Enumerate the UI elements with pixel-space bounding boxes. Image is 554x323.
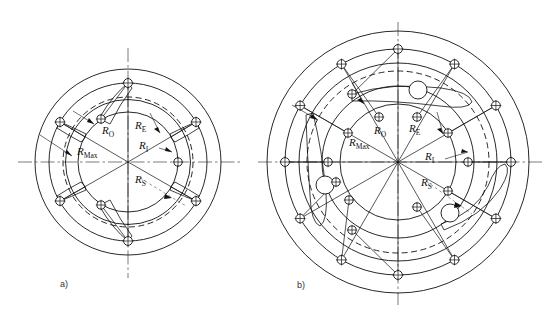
node	[463, 157, 473, 167]
label-rs: RS	[134, 173, 146, 188]
node	[412, 112, 422, 122]
technical-diagram: RO RE RMax RI RS a)	[0, 0, 554, 323]
label-ro: RO	[101, 124, 115, 139]
panel-b-joint-1	[409, 81, 427, 99]
node	[123, 236, 134, 247]
node	[323, 157, 333, 167]
node	[55, 117, 66, 128]
node	[443, 128, 453, 138]
panel-a-caption: a)	[60, 279, 68, 289]
panel-b: RO RE RMax RI RS b)	[258, 22, 545, 305]
node	[344, 195, 354, 205]
node	[336, 59, 347, 70]
panel-a-arrowhead-ro	[87, 118, 94, 124]
node	[490, 100, 501, 111]
panel-b-joint-2	[316, 176, 334, 194]
panel-b-spoke-9	[300, 162, 398, 219]
panel-a-spoke-5	[60, 162, 128, 201]
label-ri: RI	[138, 139, 149, 154]
panel-a-arrowhead-ri	[165, 147, 172, 152]
node	[336, 254, 347, 265]
label-rs: RS	[420, 176, 432, 191]
node	[295, 100, 306, 111]
panel-b-labels: RO RE RMax RI RS	[348, 122, 435, 191]
panel-b-chord-11	[300, 106, 348, 134]
node	[191, 117, 202, 128]
panel-b-arrow-ri	[445, 152, 468, 159]
panel-a: RO RE RMax RI RS a)	[18, 48, 240, 289]
panel-b-spoke-2	[398, 64, 455, 162]
label-re: RE	[134, 119, 147, 134]
node	[443, 186, 453, 196]
node	[449, 59, 460, 70]
node	[490, 213, 501, 224]
panel-b-caption: b)	[297, 280, 305, 290]
panel-a-labels: RO RE RMax RI RS	[76, 119, 149, 188]
node	[449, 254, 460, 265]
node	[55, 196, 66, 207]
panel-a-arrowhead-re	[154, 127, 160, 133]
panel-b-spoke-8	[342, 162, 399, 260]
node	[412, 202, 422, 212]
node	[123, 78, 134, 89]
label-rmax: RMax	[76, 145, 98, 160]
node	[173, 157, 183, 167]
node	[374, 112, 384, 122]
node	[191, 196, 202, 207]
label-rmax: RMax	[348, 136, 370, 151]
node	[280, 157, 291, 168]
node	[506, 157, 517, 168]
label-ro: RO	[373, 124, 387, 139]
